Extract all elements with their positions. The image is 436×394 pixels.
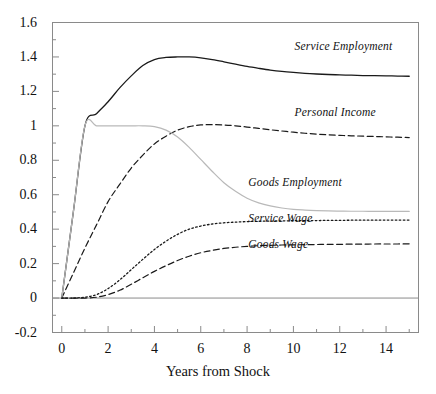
series-label-service-employment: Service Employment: [295, 41, 393, 53]
series-line-service-wage: [62, 220, 409, 298]
y-tick-label: 0.6: [0, 188, 44, 202]
y-tick-label: 0.8: [0, 153, 44, 167]
y-tick-label: 0: [0, 291, 44, 305]
series-label-goods-wage: Goods Wage: [248, 239, 308, 251]
x-tick-label: 4: [134, 342, 174, 356]
plot-area: [0, 0, 436, 394]
y-tick-label: 1.2: [0, 84, 44, 98]
x-tick-label: 2: [88, 342, 128, 356]
series-label-personal-income: Personal Income: [295, 107, 376, 119]
series-label-goods-employment: Goods Employment: [248, 177, 342, 189]
x-tick-label: 12: [320, 342, 360, 356]
x-tick-label: 10: [273, 342, 313, 356]
x-tick-label: 14: [366, 342, 406, 356]
y-tick-label: 1.4: [0, 50, 44, 64]
y-tick-label: 0.2: [0, 257, 44, 271]
x-tick-label: 6: [181, 342, 221, 356]
y-tick-label: -0.2: [0, 326, 44, 340]
y-tick-label: 0.4: [0, 222, 44, 236]
series-line-goods-employment: [62, 119, 409, 298]
series-line-service-employment: [62, 57, 409, 298]
series-label-service-wage: Service Wage: [248, 213, 312, 225]
y-tick-label: 1: [0, 119, 44, 133]
chart-figure: Service EmploymentPersonal IncomeGoods E…: [0, 0, 436, 394]
y-tick-label: 1.6: [0, 16, 44, 30]
x-tick-label: 8: [227, 342, 267, 356]
series-line-goods-wage: [62, 244, 409, 298]
x-tick-label: 0: [42, 342, 82, 356]
x-axis-title: Years from Shock: [0, 364, 436, 379]
axes-frame: [53, 23, 419, 333]
